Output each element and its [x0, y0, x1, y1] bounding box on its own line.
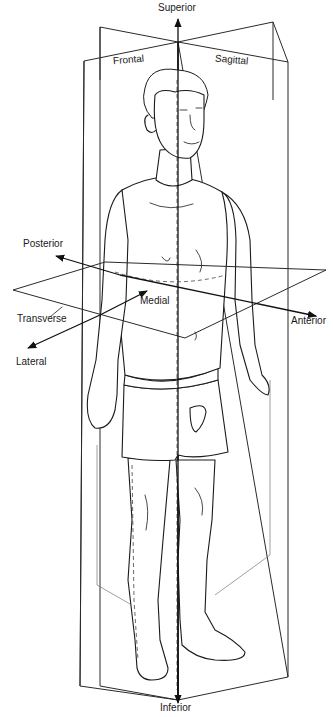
label-posterior: Posterior	[23, 239, 63, 249]
label-medial: Medial	[140, 296, 169, 306]
label-superior: Superior	[158, 3, 196, 13]
label-anterior: Anterior	[291, 316, 326, 326]
label-lateral: Lateral	[16, 357, 47, 367]
label-transverse-plane: Transverse	[17, 314, 67, 324]
anatomical-planes-diagram	[0, 0, 333, 717]
label-inferior: Inferior	[160, 703, 191, 713]
